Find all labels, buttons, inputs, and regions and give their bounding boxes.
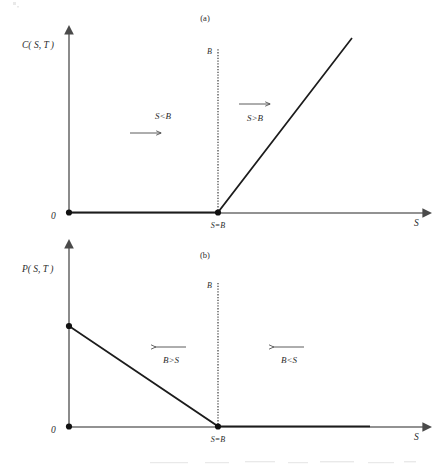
panel-a-strike-label: S=B [211, 221, 225, 230]
panel-b-strike-label: S=B [211, 435, 225, 444]
panel-a-region-left-label: S<B [155, 111, 172, 121]
panel-b-origin-point [66, 423, 72, 429]
scan-artifacts [13, 2, 416, 463]
panel-a-origin-point [66, 209, 72, 215]
panel-a-caption: (a) [200, 13, 210, 23]
panel-b-barrier-label: B [207, 281, 212, 290]
panel-b-region-left: B>S [155, 347, 186, 365]
payoff-diagrams-svg: (a) C( S, T ) S 0 B S=B S<B [0, 0, 439, 469]
panel-b-x-axis-label: S [414, 432, 419, 442]
panel-b: (b) P( S, T ) S 0 B S=B B>S B<S [21, 247, 424, 444]
panel-a-barrier-label: B [207, 47, 212, 56]
panel-a-kink-point [215, 209, 221, 215]
figure-container: (a) C( S, T ) S 0 B S=B S<B [0, 0, 439, 469]
panel-a-region-left: S<B [130, 111, 172, 133]
panel-a-y-axis-label: C( S, T ) [22, 40, 54, 51]
panel-b-origin-label: 0 [51, 425, 56, 435]
panel-b-region-right: B<S [273, 347, 304, 365]
panel-a-region-right: S>B [239, 104, 270, 123]
panel-b-payoff-line [69, 326, 370, 426]
panel-b-intercept-point [66, 323, 72, 329]
panel-a: (a) C( S, T ) S 0 B S=B S<B [22, 13, 424, 230]
panel-b-caption: (b) [200, 250, 210, 260]
panel-a-x-axis-label: S [414, 218, 419, 228]
panel-a-region-right-label: S>B [247, 113, 264, 123]
panel-b-kink-point [215, 423, 221, 429]
panel-a-origin-label: 0 [51, 211, 56, 221]
panel-b-y-axis-label: P( S, T ) [21, 264, 54, 275]
panel-a-payoff-line [69, 38, 352, 212]
panel-b-region-right-label: B<S [281, 355, 298, 365]
panel-b-region-left-label: B>S [163, 355, 180, 365]
